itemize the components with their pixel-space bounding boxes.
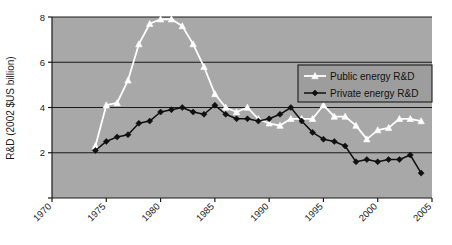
y-tick-label-2: 2 [40,147,45,158]
legend-label-0: Public energy R&D [330,71,414,82]
chart-figure: 2468 19701975198019851990199520002005 R&… [0,0,452,245]
y-tick-label-4: 4 [40,102,45,113]
y-tick-label-8: 8 [40,12,45,23]
line-chart: 2468 19701975198019851990199520002005 R&… [0,0,452,245]
legend-label-1: Private energy R&D [330,88,418,99]
y-tick-label-6: 6 [40,57,45,68]
y-axis-label: R&D (2002 $US billion) [5,56,16,159]
chart-legend: Public energy R&DPrivate energy R&D [298,65,432,102]
